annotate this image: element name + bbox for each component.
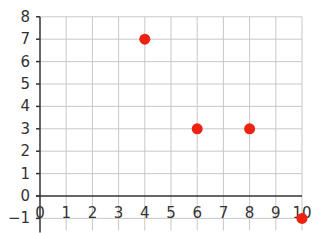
- x-tick-label: 1: [61, 204, 71, 222]
- x-tick-label: 0: [35, 204, 45, 222]
- y-tick-label: 2: [20, 142, 30, 160]
- data-point: [297, 213, 308, 224]
- y-tick-label: 3: [20, 120, 30, 138]
- x-tick-label: 2: [88, 204, 98, 222]
- data-point: [244, 123, 255, 134]
- x-tick-label: 4: [140, 204, 150, 222]
- y-tick-label: 6: [20, 53, 30, 71]
- y-tick-label: 5: [20, 75, 30, 93]
- y-tick-label: 0: [20, 187, 30, 205]
- scatter-chart: −1012345678012345678910: [0, 0, 315, 233]
- x-tick-label: 8: [245, 204, 255, 222]
- y-tick-label: 8: [20, 8, 30, 26]
- tick-labels: −1012345678012345678910: [8, 8, 312, 228]
- x-tick-label: 9: [271, 204, 281, 222]
- y-tick-label: 4: [20, 97, 30, 115]
- data-point: [139, 34, 150, 45]
- x-tick-label: 3: [114, 204, 124, 222]
- y-tick-label: 7: [20, 30, 30, 48]
- y-tick-label: −1: [8, 209, 30, 227]
- axes: [36, 17, 302, 233]
- x-tick-label: 5: [166, 204, 176, 222]
- data-point: [192, 123, 203, 134]
- grid-lines: [40, 17, 302, 231]
- y-tick-label: 1: [20, 165, 30, 183]
- x-tick-label: 6: [192, 204, 202, 222]
- x-tick-label: 7: [219, 204, 229, 222]
